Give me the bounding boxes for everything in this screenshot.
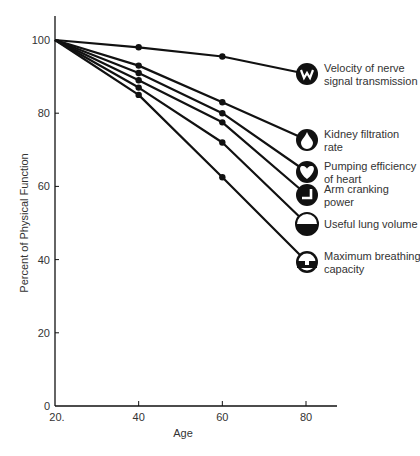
y-tick-label: 40 xyxy=(38,254,50,266)
drop-icon xyxy=(296,129,318,151)
data-point xyxy=(135,70,141,76)
data-point xyxy=(135,77,141,83)
lung-half-icon xyxy=(296,213,318,235)
legend-label: Pumping efficiency xyxy=(324,160,417,172)
data-point xyxy=(135,92,141,98)
legend-label: Kidney filtration xyxy=(324,128,399,140)
series-lines xyxy=(55,40,307,262)
legend-label: Velocity of nerve xyxy=(324,62,405,74)
heart-icon xyxy=(296,161,318,183)
data-point xyxy=(219,99,225,105)
legend-label: signal transmission xyxy=(324,75,418,87)
y-tick-label: 80 xyxy=(38,107,50,119)
y-tick-label: 60 xyxy=(38,180,50,192)
legend-label: Maximum breathing xyxy=(324,250,420,262)
data-point xyxy=(219,174,225,180)
y-tick-label: 20 xyxy=(38,327,50,339)
series-line xyxy=(55,40,307,195)
series-lung-half xyxy=(55,40,307,224)
series-line xyxy=(55,40,307,224)
data-point xyxy=(219,139,225,145)
data-point xyxy=(135,84,141,90)
series-arm-crank xyxy=(55,40,307,195)
data-point xyxy=(219,53,225,59)
line-chart: 02040608010020.406080AgePercent of Physi… xyxy=(0,0,420,456)
x-tick-label: 80 xyxy=(300,411,312,423)
y-tick-label: 100 xyxy=(32,34,50,46)
data-point xyxy=(219,110,225,116)
x-tick-label: 40 xyxy=(133,411,145,423)
axes: 02040608010020.406080AgePercent of Physi… xyxy=(18,16,337,439)
x-axis-title: Age xyxy=(173,427,193,439)
legend: Velocity of nervesignal transmissionKidn… xyxy=(296,62,420,275)
legend-label: rate xyxy=(324,141,343,153)
legend-label: power xyxy=(324,196,354,208)
series-line xyxy=(55,40,307,172)
data-point xyxy=(135,62,141,68)
series-breathing xyxy=(55,40,307,262)
breathing-icon xyxy=(296,251,318,273)
x-tick-label: 60 xyxy=(216,411,228,423)
arm-crank-icon xyxy=(296,184,318,206)
series-heart xyxy=(55,40,307,172)
legend-label: capacity xyxy=(324,263,365,275)
x-tick-label: 20. xyxy=(49,411,64,423)
y-axis-title: Percent of Physical Function xyxy=(18,153,30,292)
data-point xyxy=(219,119,225,125)
data-point xyxy=(135,44,141,50)
nerve-w-icon xyxy=(296,63,318,85)
series-line xyxy=(55,40,307,262)
legend-label: Useful lung volume xyxy=(324,218,418,230)
legend-label: Arm cranking xyxy=(324,183,389,195)
